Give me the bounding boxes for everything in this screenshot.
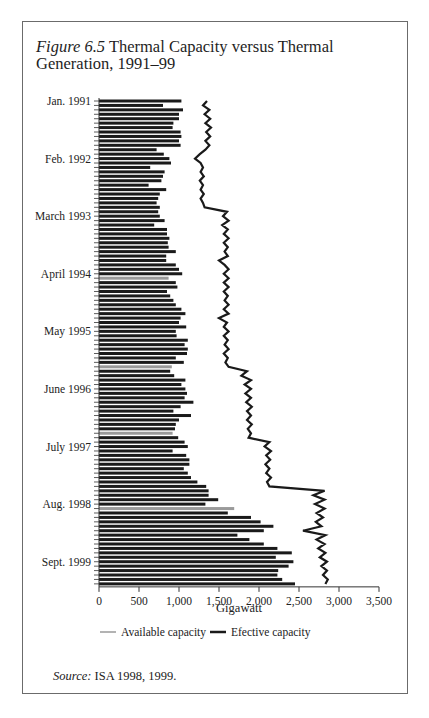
bar [99,290,167,293]
bar [99,210,158,213]
bar [99,100,181,103]
bar [99,250,176,253]
bar [99,449,173,452]
bar [99,525,273,528]
legend: Available capacityEfective capacity [100,626,311,639]
bar [99,108,183,111]
bar [99,232,167,235]
bar [99,529,264,532]
bar [99,516,251,519]
y-tick-label: March 1993 [35,210,91,222]
bar [99,237,169,240]
bar [99,312,185,315]
bar [99,538,249,541]
y-axis: Jan. 1991Feb. 1992March 1993April 1994Ma… [35,95,99,587]
bar [99,370,170,373]
bar [99,551,292,554]
bar [99,565,289,568]
x-tick-label: 500 [130,595,148,607]
x-tick-label: 1,000 [166,595,192,608]
bar [99,246,169,249]
bar [99,383,181,386]
bar [99,432,173,435]
bar [99,259,166,262]
bar [99,299,173,302]
bar [99,308,181,311]
bar [99,348,188,351]
bar [99,113,179,116]
bar [99,574,277,577]
bar [99,463,189,466]
bar [99,582,295,585]
bar [99,569,278,572]
bar [99,414,191,417]
y-tick-label: Jan. 1991 [47,95,91,107]
bar [99,131,181,134]
bar [99,410,173,413]
bar [99,197,158,200]
bar [99,157,169,160]
bar [99,201,157,204]
y-tick-label: Feb. 1992 [45,153,91,165]
bar [99,241,168,244]
bar [99,286,177,289]
bar [99,507,234,510]
bar [99,104,163,107]
bar [99,454,186,457]
bar [99,148,157,151]
bar [99,135,181,138]
bar [99,184,149,187]
bar [99,179,161,182]
bar [99,325,186,328]
bar [99,534,237,537]
bar [99,494,209,497]
bar [99,321,179,324]
bar [99,547,277,550]
bar [99,423,176,426]
bar [99,268,179,271]
bar [99,224,154,227]
bars-group [99,100,295,586]
bar [99,166,150,169]
bar [99,255,166,258]
bar [99,560,293,563]
bar [99,117,179,120]
source-text: ISA 1998, 1999. [95,669,177,683]
bar [99,578,282,581]
y-tick-label: Aug. 1998 [42,498,91,511]
bar [99,374,174,377]
bar [99,263,176,266]
bar [99,206,160,209]
bar [99,480,197,483]
y-tick-label: June 1996 [44,383,91,395]
bar [99,396,185,399]
bar [99,215,160,218]
bar [99,418,179,421]
bar [99,556,276,559]
bar [99,427,175,430]
bar [99,352,187,355]
effective-capacity-line [195,101,328,584]
bar-chart: Jan. 1991Feb. 1992March 1993April 1994Ma… [0,0,429,718]
bar [99,175,163,178]
bar [99,445,188,448]
bar [99,476,191,479]
bar [99,498,218,501]
bar [99,153,164,156]
bar [99,193,160,196]
bar [99,472,188,475]
x-tick-label: 2,500 [286,595,312,608]
bar [99,436,178,439]
bar [99,405,181,408]
bar [99,170,165,173]
y-tick-label: April 1994 [41,268,91,281]
bar [99,219,165,222]
bar [99,343,185,346]
bar [99,294,170,297]
x-axis-label: Gigawatt [216,601,262,615]
y-tick-label: Sept. 1999 [42,556,91,569]
bar [99,228,167,231]
bar [99,365,172,368]
x-tick-label: 3,000 [326,595,352,608]
y-tick-label: July 1997 [46,441,91,454]
